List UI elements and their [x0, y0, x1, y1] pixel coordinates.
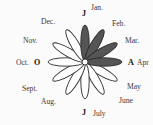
label-nov: Nov.	[23, 37, 37, 45]
label-sept: Sept.	[22, 85, 37, 93]
label-mar: Mar.	[125, 37, 139, 45]
label-jan: Jan.	[91, 4, 103, 12]
marker-bottom-j: J	[82, 109, 86, 117]
label-dec: Dec.	[41, 18, 55, 26]
label-july: July	[93, 110, 106, 118]
marker-right-a: A	[128, 59, 134, 67]
center-hub	[82, 59, 88, 65]
marker-left-o: O	[34, 59, 40, 67]
label-june: June	[119, 97, 133, 105]
label-may: May	[127, 83, 141, 91]
petal-apr	[86, 58, 122, 66]
label-aug: Aug.	[41, 98, 56, 106]
marker-top-j: J	[82, 10, 86, 18]
label-apr: Apr	[137, 59, 149, 67]
label-feb: Feb.	[112, 20, 125, 28]
label-oct: Oct.	[16, 59, 29, 67]
